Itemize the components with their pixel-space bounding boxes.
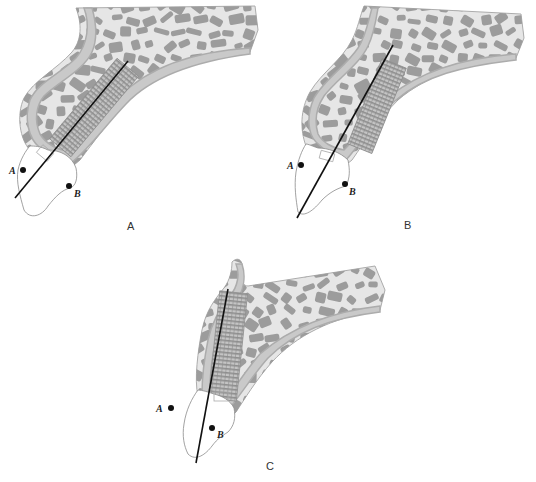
panel-c: AB <box>140 240 400 460</box>
tooth-crown <box>183 390 235 457</box>
panel-b: AB <box>266 0 536 215</box>
tooth-crown <box>295 144 349 214</box>
reference-point-label-b: B <box>73 188 81 199</box>
reference-point-label-a: A <box>8 165 16 176</box>
panel-caption-b: B <box>404 219 411 231</box>
reference-point-a <box>20 167 26 173</box>
reference-point-label-b: B <box>348 186 356 197</box>
reference-point-label-b: B <box>216 429 224 440</box>
reference-point-b <box>342 181 348 187</box>
reference-point-label-a: A <box>286 160 294 171</box>
panel-caption-c: C <box>266 460 274 472</box>
reference-point-b <box>66 183 72 189</box>
reference-point-b <box>209 425 215 431</box>
reference-point-a <box>298 162 304 168</box>
panel-caption-a: A <box>127 220 134 232</box>
tooth-crown <box>17 146 76 216</box>
reference-point-label-a: A <box>155 403 163 414</box>
reference-point-a <box>168 405 174 411</box>
panel-a: AB <box>0 0 270 215</box>
